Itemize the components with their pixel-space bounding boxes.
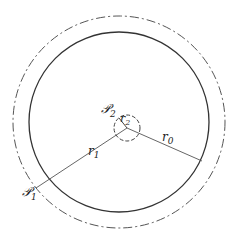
label-r0: r0: [162, 130, 174, 146]
label-p2: 𝒫2: [101, 101, 116, 119]
r1-line: [36, 128, 127, 188]
diagram-canvas: 𝒫2 r2 r0 r1 𝒫1: [0, 0, 237, 241]
solid-circle-r0: [29, 32, 209, 212]
concentric-circles-diagram: 𝒫2 r2 r0 r1 𝒫1: [0, 0, 237, 241]
label-r2: r2: [120, 112, 130, 127]
outer-dashed-circle: [13, 16, 225, 228]
label-r1: r1: [88, 144, 99, 160]
